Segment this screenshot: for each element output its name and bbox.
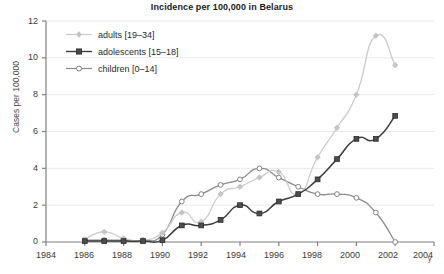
data-point <box>335 192 340 197</box>
data-point <box>237 184 242 189</box>
data-point <box>238 203 243 208</box>
data-point <box>257 166 262 171</box>
data-point <box>218 218 223 223</box>
data-point <box>218 183 223 188</box>
data-point <box>257 175 262 180</box>
data-point <box>354 195 359 200</box>
data-point <box>354 92 359 97</box>
data-point <box>199 192 204 197</box>
data-point <box>276 175 281 180</box>
data-point <box>102 239 107 244</box>
chart-container: Incidence per 100,000 in Belarus Cases p… <box>0 0 444 274</box>
data-point <box>296 184 301 189</box>
data-point <box>121 239 126 244</box>
data-point <box>354 136 359 141</box>
data-point <box>393 113 398 118</box>
data-point <box>315 192 320 197</box>
data-point <box>102 229 107 234</box>
data-point <box>141 239 146 244</box>
data-point <box>276 199 281 204</box>
data-point <box>160 238 165 243</box>
data-point <box>199 223 204 228</box>
data-point <box>335 157 340 162</box>
data-point <box>393 63 398 68</box>
data-point <box>296 192 301 197</box>
data-point <box>315 177 320 182</box>
data-point <box>393 240 398 245</box>
data-point <box>257 211 262 216</box>
plot-area <box>0 0 444 274</box>
data-point <box>238 177 243 182</box>
data-point <box>373 210 378 215</box>
series-layer <box>82 33 398 244</box>
data-point <box>82 239 87 244</box>
data-point <box>179 210 184 215</box>
series-adults <box>82 33 398 243</box>
data-point <box>179 199 184 204</box>
data-point <box>373 136 378 141</box>
data-point <box>315 155 320 160</box>
data-point <box>179 223 184 228</box>
